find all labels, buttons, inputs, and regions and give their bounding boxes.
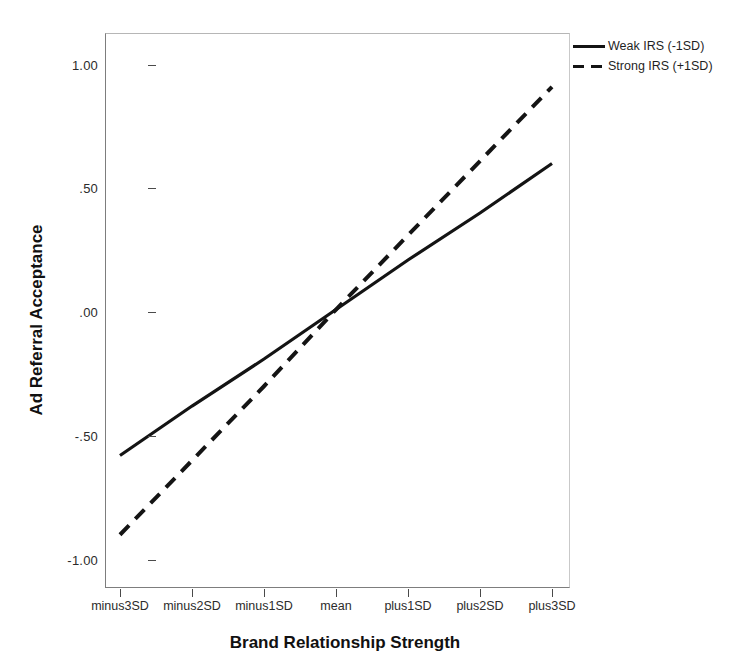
y-tick-label: .00 bbox=[79, 305, 98, 320]
x-tick-mark bbox=[264, 589, 265, 597]
plot-lines bbox=[105, 33, 570, 588]
x-tick-label: minus2SD bbox=[163, 599, 221, 613]
x-tick-mark bbox=[120, 589, 121, 597]
x-tick-label: plus2SD bbox=[456, 599, 503, 613]
x-axis-title: Brand Relationship Strength bbox=[0, 633, 690, 653]
x-tick-label: minus3SD bbox=[91, 599, 149, 613]
y-tick-mark bbox=[148, 65, 156, 66]
x-tick-label: plus3SD bbox=[528, 599, 575, 613]
x-tick-mark bbox=[480, 589, 481, 597]
dashed-line-icon bbox=[572, 60, 606, 72]
y-axis-title: Ad Referral Acceptance bbox=[27, 190, 47, 450]
y-tick-label: .50 bbox=[79, 181, 98, 196]
x-tick-mark bbox=[192, 589, 193, 597]
y-tick-mark bbox=[148, 560, 156, 561]
solid-line-icon bbox=[572, 40, 606, 52]
y-tick-mark bbox=[148, 312, 156, 313]
legend-item-label: Strong IRS (+1SD) bbox=[606, 59, 713, 73]
legend-item[interactable]: Strong IRS (+1SD) bbox=[572, 56, 737, 76]
y-tick-mark bbox=[148, 436, 156, 437]
x-tick-label: minus1SD bbox=[235, 599, 293, 613]
x-tick-label: mean bbox=[320, 599, 351, 613]
x-tick-label: plus1SD bbox=[384, 599, 431, 613]
legend-item[interactable]: Weak IRS (-1SD) bbox=[572, 36, 737, 56]
x-tick-mark bbox=[336, 589, 337, 597]
y-tick-label: 1.00 bbox=[72, 57, 98, 72]
y-tick-label: -.50 bbox=[75, 428, 98, 443]
chart-legend: Weak IRS (-1SD)Strong IRS (+1SD) bbox=[572, 36, 737, 76]
y-tick-label: -1.00 bbox=[67, 552, 98, 567]
chart-container: 1.00.50.00-.50-1.00 Ad Referral Acceptan… bbox=[0, 0, 737, 669]
legend-item-label: Weak IRS (-1SD) bbox=[606, 39, 704, 53]
y-axis-ticks: 1.00.50.00-.50-1.00 bbox=[50, 0, 98, 669]
series-line bbox=[120, 87, 552, 535]
x-tick-mark bbox=[408, 589, 409, 597]
x-tick-mark bbox=[552, 589, 553, 597]
y-tick-mark bbox=[148, 188, 156, 189]
